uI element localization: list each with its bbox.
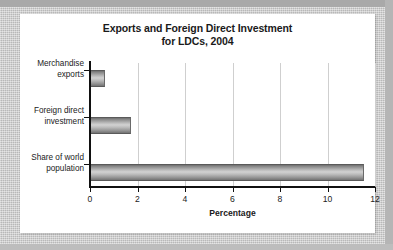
x-tick-label-0: 0: [78, 194, 102, 204]
y-axis-label-line-1: Foreign direct: [20, 106, 84, 117]
y-axis-label-merchandise-exports: Merchandise exports: [20, 59, 84, 80]
chart-panel: Exports and Foreign Direct Investment fo…: [20, 14, 375, 233]
frame-top-strip: [0, 0, 393, 7]
y-tick-2: [84, 164, 89, 165]
x-tick-label-4: 4: [173, 194, 197, 204]
x-tick-12: [375, 187, 376, 192]
y-axis-line: [89, 61, 91, 188]
y-axis-label-line-2: population: [20, 164, 84, 175]
frame-right-strip: [385, 0, 393, 250]
x-tick-8: [280, 187, 281, 192]
figure-frame: Exports and Foreign Direct Investment fo…: [0, 0, 393, 250]
chart-title: Exports and Foreign Direct Investment fo…: [20, 22, 375, 48]
x-tick-label-6: 6: [221, 194, 245, 204]
y-axis-label-line-1: Share of world: [20, 153, 84, 164]
chart-title-line-2: for LDCs, 2004: [20, 35, 375, 48]
frame-bottom-strip: [0, 244, 393, 250]
x-tick-0: [90, 187, 91, 192]
x-tick-2: [138, 187, 139, 192]
x-tick-label-10: 10: [316, 194, 340, 204]
y-axis-label-line-2: investment: [20, 117, 84, 128]
y-axis-label-line-2: exports: [20, 70, 84, 81]
y-axis-label-share-of-world-population: Share of world population: [20, 153, 84, 174]
y-axis-label-foreign-direct-investment: Foreign direct investment: [20, 106, 84, 127]
x-tick-4: [185, 187, 186, 192]
y-tick-0: [84, 70, 89, 71]
x-tick-6: [233, 187, 234, 192]
x-axis-title: Percentage: [90, 208, 375, 218]
y-axis-label-line-1: Merchandise: [20, 59, 84, 70]
plot-area: [90, 63, 375, 186]
x-tick-10: [328, 187, 329, 192]
chart-title-line-1: Exports and Foreign Direct Investment: [103, 22, 292, 34]
x-tick-label-2: 2: [126, 194, 150, 204]
x-tick-label-8: 8: [268, 194, 292, 204]
bar-foreign-direct-investment: [90, 117, 131, 134]
gridline-12: [375, 63, 376, 186]
x-tick-label-12: 12: [363, 194, 387, 204]
bar-merchandise-exports: [90, 70, 105, 87]
y-tick-1: [84, 117, 89, 118]
bar-share-of-world-population: [90, 164, 364, 181]
